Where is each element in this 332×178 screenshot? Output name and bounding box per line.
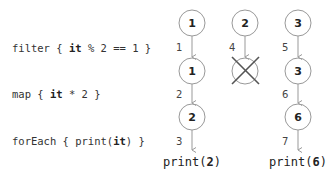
node-label: 2 bbox=[188, 111, 196, 124]
node-label: 3 bbox=[294, 65, 302, 78]
step-number: 5 bbox=[282, 42, 288, 53]
node-label: 1 bbox=[188, 65, 196, 78]
step-number: 4 bbox=[229, 42, 235, 53]
print-output-1: print(2) bbox=[163, 155, 221, 169]
sequence-diagram: 1 1 2 2 3 3 6 1 2 3 4 5 6 7 print(2) pri… bbox=[0, 0, 332, 178]
step-number: 3 bbox=[176, 136, 182, 147]
node-label: 6 bbox=[294, 111, 302, 124]
print-output-2: print(6) bbox=[269, 155, 327, 169]
step-number: 2 bbox=[176, 89, 182, 100]
step-number: 1 bbox=[176, 42, 182, 53]
node-label: 3 bbox=[294, 17, 302, 30]
cross-icon bbox=[232, 57, 259, 84]
node-label: 2 bbox=[241, 17, 249, 30]
node-label: 1 bbox=[188, 17, 196, 30]
step-number: 6 bbox=[282, 89, 288, 100]
step-number: 7 bbox=[282, 136, 288, 147]
